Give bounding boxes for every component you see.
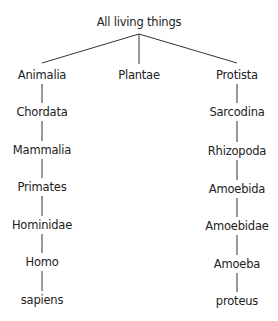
node-homo: Homo bbox=[25, 255, 58, 269]
node-rhizopoda: Rhizopoda bbox=[208, 144, 266, 158]
edge-root-protista bbox=[139, 34, 237, 63]
node-primates: Primates bbox=[18, 180, 67, 194]
node-chordata: Chordata bbox=[16, 105, 67, 119]
node-proteus: proteus bbox=[216, 294, 258, 308]
node-amoebida: Amoebida bbox=[209, 182, 265, 196]
root-node: All living things bbox=[97, 15, 182, 29]
node-sapiens: sapiens bbox=[21, 293, 64, 307]
node-protista: Protista bbox=[216, 68, 258, 82]
node-hominidae: Hominidae bbox=[12, 218, 72, 232]
node-sarcodina: Sarcodina bbox=[209, 105, 264, 119]
node-animalia: Animalia bbox=[18, 68, 66, 82]
node-amoeba: Amoeba bbox=[214, 257, 260, 271]
edge-root-animalia bbox=[42, 34, 139, 63]
tree-lines bbox=[0, 0, 278, 321]
node-amoebidae: Amoebidae bbox=[205, 219, 268, 233]
node-mammalia: Mammalia bbox=[13, 143, 71, 157]
node-plantae: Plantae bbox=[118, 68, 160, 82]
